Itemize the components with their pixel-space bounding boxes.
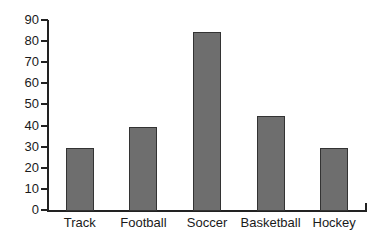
y-axis-tick-label: 70 xyxy=(9,55,39,68)
x-axis-label-basketball: Basketball xyxy=(239,216,303,229)
y-axis-tick-label: 60 xyxy=(9,76,39,89)
bar-hockey xyxy=(320,148,348,211)
x-axis-label-football: Football xyxy=(112,216,176,229)
plot-area xyxy=(48,20,366,211)
y-axis-tick-label: 40 xyxy=(9,119,39,132)
y-axis-tick xyxy=(41,209,48,211)
y-axis-tick-label: 50 xyxy=(9,97,39,110)
y-axis-tick xyxy=(41,40,48,42)
bar-soccer xyxy=(193,32,221,211)
y-axis-tick-label: 10 xyxy=(9,182,39,195)
bar-chart-figure: 0102030405060708090 TrackFootballSoccerB… xyxy=(0,0,382,252)
bar-basketball xyxy=(257,116,285,211)
y-axis-tick xyxy=(41,61,48,63)
x-axis-label-track: Track xyxy=(48,216,112,229)
bar-football xyxy=(129,127,157,211)
y-axis-tick-label: 90 xyxy=(9,13,39,26)
x-axis-label-soccer: Soccer xyxy=(175,216,239,229)
y-axis-tick-label: 0 xyxy=(9,203,39,216)
y-axis-tick xyxy=(41,82,48,84)
x-axis-label-hockey: Hockey xyxy=(302,216,366,229)
bar-track xyxy=(66,148,94,211)
y-axis-tick xyxy=(41,146,48,148)
y-axis-tick xyxy=(41,188,48,190)
y-axis-tick xyxy=(41,103,48,105)
y-axis-tick-label: 80 xyxy=(9,34,39,47)
y-axis-tick xyxy=(41,167,48,169)
y-axis-tick xyxy=(41,19,48,21)
y-axis-tick-label: 30 xyxy=(9,140,39,153)
y-axis-tick-label: 20 xyxy=(9,161,39,174)
y-axis-tick xyxy=(41,125,48,127)
